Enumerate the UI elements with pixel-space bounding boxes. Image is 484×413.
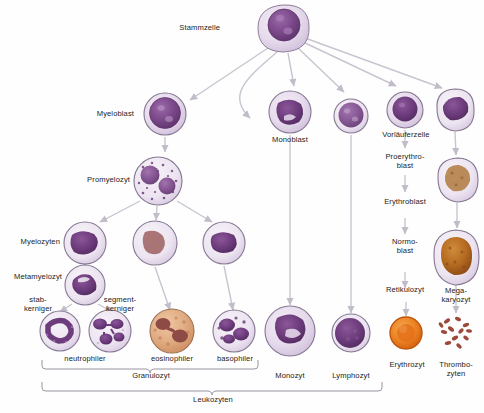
cell-lymphozyt bbox=[332, 314, 370, 352]
label-myelozyten: Myelozyten bbox=[2, 238, 60, 247]
cell-basophiler bbox=[213, 310, 255, 352]
label-eosinophiler: eosinophiler bbox=[134, 355, 210, 364]
label-retikulozyt: Retikulozyt bbox=[374, 286, 436, 295]
cell-neutrophiler-stabkerniger bbox=[40, 311, 80, 351]
cell-megakaryoblast bbox=[437, 89, 474, 131]
label-erythroblast: Erythroblast bbox=[372, 198, 438, 207]
label-monozyt: Monozyt bbox=[262, 372, 318, 381]
cell-myelozyt-eosinophil bbox=[133, 221, 177, 265]
label-metamyelozyt: Metamyelozyt bbox=[0, 273, 62, 282]
label-segmentkerniger: segment- kerniger bbox=[92, 296, 148, 313]
label-leukozyten: Leukozyten bbox=[180, 396, 246, 405]
cell-erythrozyt bbox=[390, 317, 422, 349]
cell-eosinophiler bbox=[150, 309, 194, 353]
label-basophiler: basophiler bbox=[200, 355, 270, 364]
label-megakaryozyt: Mega- karyozyt bbox=[428, 287, 484, 304]
cell-thrombozyten bbox=[438, 316, 472, 350]
label-promyelozyt: Promyelozyt bbox=[68, 176, 130, 185]
cell-neutrophiler-segmentkerniger bbox=[89, 310, 131, 352]
cell-lymphoblast bbox=[334, 99, 368, 133]
label-normoblast: Normo- blast bbox=[378, 238, 432, 255]
label-myeloblast: Myeloblast bbox=[72, 110, 134, 119]
cell-promegakaryozyt bbox=[438, 158, 478, 202]
cell-myeloblast bbox=[144, 93, 186, 135]
label-stabkerniger: stab- kerniger bbox=[14, 296, 62, 313]
cell-megakaryozyt bbox=[434, 230, 479, 285]
label-stammzelle: Stammzelle bbox=[168, 24, 220, 33]
cell-myelozyt-neutrophil bbox=[64, 222, 106, 264]
label-monoblast: Monoblast bbox=[258, 136, 322, 145]
cell-monozyt bbox=[265, 306, 315, 356]
cell-monoblast bbox=[269, 91, 311, 133]
cell-promyelozyt bbox=[134, 157, 182, 205]
label-neutrophiler: neutrophiler bbox=[46, 355, 124, 364]
label-proerythroblast: Proerythro- blast bbox=[374, 153, 436, 170]
label-lymphozyt: Lymphozyt bbox=[320, 372, 382, 381]
label-granulozyt: Granulozyt bbox=[118, 372, 184, 381]
cell-vorlaeuferzelle bbox=[387, 92, 423, 128]
cell-stammzelle bbox=[258, 5, 309, 52]
label-vorlaeuferzelle: Vorläuferzelle bbox=[372, 131, 440, 140]
label-thrombozyten: Thrombo- zyten bbox=[428, 361, 484, 378]
hematopoiesis-diagram: Stammzelle Myeloblast Promyelozyt Myeloz… bbox=[0, 0, 484, 413]
cell-myelozyt-basophil bbox=[203, 222, 245, 264]
